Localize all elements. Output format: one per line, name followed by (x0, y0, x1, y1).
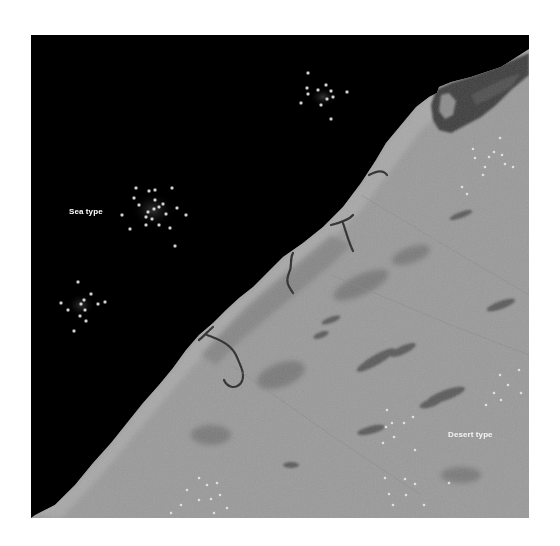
satellite-image: Sea type Desert type (31, 35, 529, 518)
desert-type-label: Desert type (448, 430, 493, 440)
sea-type-label: Sea type (69, 207, 103, 217)
satellite-scene (31, 35, 529, 518)
